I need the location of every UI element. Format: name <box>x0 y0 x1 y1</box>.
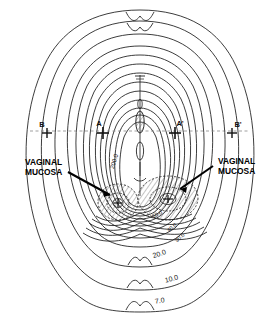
reference-label-A-prime: A' <box>176 119 183 128</box>
contour-20-notch <box>128 257 152 265</box>
left-callout-line1: VAGINAL <box>25 157 62 167</box>
isodose-diagram: B A A' B' 200.0 50.0 40.0 30.0 20.0 10.0… <box>0 0 280 316</box>
contour-10-top-notch <box>127 23 153 31</box>
figure-canvas: B A A' B' 200.0 50.0 40.0 30.0 20.0 10.0… <box>0 0 280 316</box>
left-callout-line2: MUCOSA <box>25 167 62 177</box>
contour-label-7: 7.0 <box>154 296 165 304</box>
reference-point-B-prime <box>227 128 237 138</box>
contour-7-notch <box>126 301 154 310</box>
right-callout-line2: MUCOSA <box>218 166 255 176</box>
contour-label-40: 40.0 <box>166 222 178 234</box>
right-callout-line1: VAGINAL <box>218 156 255 166</box>
tandem-source-middle <box>136 111 144 133</box>
contour-10-notch <box>127 280 153 288</box>
reference-label-B: B <box>39 120 45 129</box>
right-callout-leader <box>180 166 213 189</box>
reference-label-B-prime: B' <box>234 120 241 129</box>
contour-label-10: 10.0 <box>164 274 179 284</box>
reference-label-A: A <box>96 119 102 128</box>
reference-point-B <box>42 128 52 138</box>
contour-label-200: 200.0 <box>109 153 120 170</box>
contour-label-20: 20.0 <box>152 248 167 259</box>
contour-outer-top-notch <box>126 12 154 21</box>
